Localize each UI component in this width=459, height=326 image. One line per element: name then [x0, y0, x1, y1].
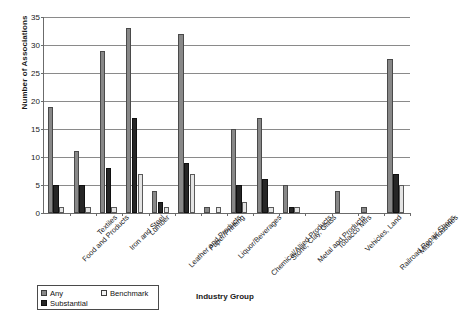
bar-group — [305, 17, 331, 213]
bar-any — [257, 118, 262, 213]
legend-item-benchmark: Benchmark — [101, 289, 148, 298]
bar-any — [283, 185, 288, 213]
bar-bench — [242, 202, 247, 213]
bar-any — [152, 191, 157, 213]
chart-legend: Any Benchmark Substantial — [37, 285, 159, 310]
y-tick-label: 10 — [31, 153, 40, 162]
bar-group — [201, 17, 227, 213]
bar-group — [175, 17, 201, 213]
x-axis-title: Industry Group — [150, 292, 300, 301]
y-tick-label: 15 — [31, 125, 40, 134]
bar-group — [384, 17, 410, 213]
bar-any — [74, 151, 79, 213]
bar-sub — [236, 185, 241, 213]
bar-group — [149, 17, 175, 213]
bar-sub — [393, 174, 398, 213]
bar-group — [279, 17, 305, 213]
bar-group — [253, 17, 279, 213]
bar-sub — [53, 185, 58, 213]
y-tick-label: 20 — [31, 97, 40, 106]
bar-group — [227, 17, 253, 213]
x-axis-label: Misc. Industries — [417, 213, 459, 256]
bar-any — [387, 59, 392, 213]
legend-swatch-any-icon — [41, 290, 47, 296]
plot-area: 05101520253035 — [43, 17, 410, 214]
legend-item-any: Any — [41, 289, 101, 298]
y-tick-label: 5 — [36, 181, 40, 190]
y-axis-title: Number of Associations — [20, 0, 29, 143]
bar-sub — [184, 163, 189, 213]
bar-bench — [138, 174, 143, 213]
bar-sub — [158, 202, 163, 213]
legend-row-2: Substantial — [41, 298, 155, 308]
bar-group — [44, 17, 70, 213]
bar-bench — [190, 174, 195, 213]
bar-any — [178, 34, 183, 213]
legend-label-substantial: Substantial — [50, 299, 88, 308]
legend-label-benchmark: Benchmark — [110, 289, 148, 298]
y-tick-label: 30 — [31, 41, 40, 50]
bar-sub — [132, 118, 137, 213]
y-tick-label: 35 — [31, 13, 40, 22]
bar-group — [96, 17, 122, 213]
bar-sub — [106, 168, 111, 213]
x-axis-label: Paper/Printing — [206, 213, 245, 252]
y-tick-label: 25 — [31, 69, 40, 78]
x-tick-mark — [410, 213, 411, 216]
bar-group — [358, 17, 384, 213]
bar-any — [48, 107, 53, 213]
bar-any — [231, 129, 236, 213]
bar-sub — [262, 179, 267, 213]
bar-bench — [399, 185, 404, 213]
legend-swatch-substantial-icon — [41, 300, 47, 306]
legend-item-substantial: Substantial — [41, 299, 101, 308]
legend-label-any: Any — [50, 289, 63, 298]
legend-row-1: Any Benchmark — [41, 288, 155, 298]
bar-any — [126, 28, 131, 213]
bar-group — [70, 17, 96, 213]
x-axis-label: Lumber — [148, 213, 172, 237]
x-axis-category-labels: Food and ProductsTextilesIron and SteelL… — [43, 213, 409, 283]
bar-group — [332, 17, 358, 213]
bar-any — [335, 191, 340, 213]
legend-swatch-benchmark-icon — [101, 290, 107, 296]
bar-sub — [79, 185, 84, 213]
bar-any — [100, 51, 105, 213]
y-tick-label: 0 — [36, 209, 40, 218]
bar-group — [122, 17, 148, 213]
